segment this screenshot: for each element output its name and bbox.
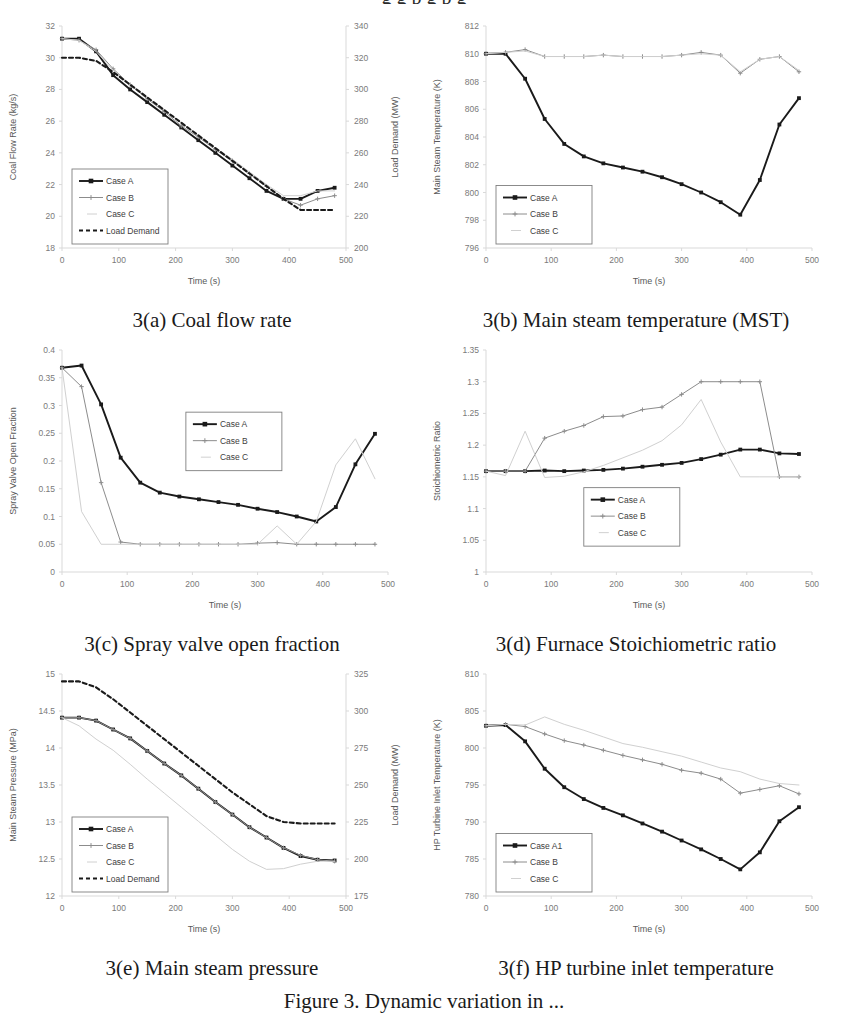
- y-tick-label: 14: [46, 743, 56, 753]
- y-tick-label: 0.25: [38, 428, 55, 438]
- legend-label: Case A: [106, 824, 134, 834]
- legend-label: Load Demand: [106, 226, 160, 236]
- plot-area-3e[interactable]: 1212.51313.51414.51517520022525027530032…: [0, 656, 424, 956]
- chart-3c: 00.050.10.150.20.250.30.350.401002003004…: [0, 332, 424, 632]
- y-tick-label: 1.2: [467, 440, 479, 450]
- x-tick-label: 400: [740, 579, 754, 589]
- legend-label: Case B: [220, 436, 248, 446]
- y-tick-label: 796: [465, 243, 479, 253]
- y-tick-label: 0.3: [43, 401, 55, 411]
- y2-tick-label: 250: [354, 780, 368, 790]
- x-tick-label: 400: [740, 255, 754, 265]
- y-tick-label: 812: [465, 21, 479, 31]
- x-tick-label: 300: [251, 579, 265, 589]
- chart-3a: 1820222426283032200220240260280300320340…: [0, 8, 424, 308]
- y-tick-label: 802: [465, 160, 479, 170]
- figure-caption: Figure 3. Dynamic variation in ...: [0, 989, 848, 1014]
- y-tick-label: 810: [465, 49, 479, 59]
- y-tick-label: 30: [46, 53, 56, 63]
- y-tick-label: 0.4: [43, 345, 55, 355]
- panel-3a: 1820222426283032200220240260280300320340…: [0, 8, 424, 332]
- x-tick-label: 500: [381, 579, 395, 589]
- y-tick-label: 808: [465, 77, 479, 87]
- legend-3a[interactable]: Case ACase BCase CLoad Demand: [72, 169, 168, 244]
- plot-area-3c[interactable]: 00.050.10.150.20.250.30.350.401002003004…: [0, 332, 424, 632]
- y-axis-title: Spray Valve Open Fraction: [8, 407, 18, 514]
- y2-tick-label: 175: [354, 891, 368, 901]
- legend-3c[interactable]: Case ACase BCase C: [186, 412, 282, 471]
- x-tick-label: 200: [169, 903, 183, 913]
- y2-tick-label: 275: [354, 743, 368, 753]
- y2-tick-label: 325: [354, 669, 368, 679]
- x-axis-title: Time (s): [209, 600, 242, 610]
- y-tick-label: 1.3: [467, 377, 479, 387]
- x-tick-label: 500: [339, 255, 353, 265]
- plot-area-3f[interactable]: 7807857907958008058100100200300400500Tim…: [424, 656, 848, 956]
- x-tick-label: 200: [609, 255, 623, 265]
- x-tick-label: 100: [120, 579, 134, 589]
- y2-tick-label: 220: [354, 211, 368, 221]
- y2-tick-label: 300: [354, 706, 368, 716]
- x-tick-label: 200: [609, 903, 623, 913]
- y-tick-label: 1.05: [462, 535, 479, 545]
- series-case-b: [484, 47, 801, 75]
- legend-3e[interactable]: Case ACase BCase CLoad Demand: [72, 817, 168, 892]
- y-axis-title: HP Turbine Inlet Temperature (K): [432, 719, 442, 851]
- x-tick-label: 200: [185, 579, 199, 589]
- series-case-c: [486, 51, 799, 72]
- y-tick-label: 0: [50, 567, 55, 577]
- legend-label: Load Demand: [106, 874, 160, 884]
- x-tick-label: 0: [60, 903, 65, 913]
- y-tick-label: 26: [46, 116, 56, 126]
- y-tick-label: 1: [474, 567, 479, 577]
- x-tick-label: 0: [484, 255, 489, 265]
- y2-tick-label: 200: [354, 243, 368, 253]
- legend-3f[interactable]: Case A1Case BCase C: [496, 834, 592, 893]
- legend-label: Case C: [220, 452, 248, 462]
- y-tick-label: 13: [46, 817, 56, 827]
- x-tick-label: 100: [544, 255, 558, 265]
- x-tick-label: 400: [740, 903, 754, 913]
- y-tick-label: 12: [46, 891, 56, 901]
- y2-tick-label: 300: [354, 84, 368, 94]
- legend-label: Case A: [220, 419, 248, 429]
- x-tick-label: 400: [282, 255, 296, 265]
- x-axis-title: Time (s): [188, 924, 221, 934]
- legend-label: Case A1: [530, 841, 562, 851]
- y2-tick-label: 280: [354, 116, 368, 126]
- x-axis-title: Time (s): [188, 276, 221, 286]
- y-axis-title: Stoichiometric Ratio: [432, 421, 442, 501]
- legend-3d[interactable]: Case ACase BCase C: [584, 488, 680, 547]
- x-tick-label: 400: [316, 579, 330, 589]
- x-tick-label: 300: [675, 255, 689, 265]
- y-tick-label: 0.1: [43, 512, 55, 522]
- y-tick-label: 18: [46, 243, 56, 253]
- x-tick-label: 100: [544, 903, 558, 913]
- series-case-b: [484, 722, 801, 796]
- panel-3d: 11.051.11.151.21.251.31.3501002003004005…: [424, 332, 848, 656]
- x-tick-label: 0: [484, 903, 489, 913]
- panel-caption-3e: 3(e) Main steam pressure: [0, 956, 424, 980]
- y-tick-label: 13.5: [38, 780, 55, 790]
- series-case-b: [484, 380, 801, 480]
- plot-area-3d[interactable]: 11.051.11.151.21.251.31.3501002003004005…: [424, 332, 848, 632]
- y-tick-label: 24: [46, 148, 56, 158]
- y-tick-label: 1.1: [467, 504, 479, 514]
- x-tick-label: 0: [484, 579, 489, 589]
- y2-tick-label: 225: [354, 817, 368, 827]
- y-tick-label: 0.15: [38, 484, 55, 494]
- legend-label: Case A: [106, 176, 134, 186]
- chart-3f: 7807857907958008058100100200300400500Tim…: [424, 656, 848, 956]
- x-axis-title: Time (s): [633, 600, 666, 610]
- y-tick-label: 810: [465, 669, 479, 679]
- x-tick-label: 500: [805, 255, 819, 265]
- chart-3b: 7967988008028048068088108120100200300400…: [424, 8, 848, 308]
- legend-3b[interactable]: Case ACase BCase C: [496, 186, 592, 245]
- x-tick-label: 100: [544, 579, 558, 589]
- y2-tick-label: 260: [354, 148, 368, 158]
- y-tick-label: 804: [465, 132, 479, 142]
- y-tick-label: 780: [465, 891, 479, 901]
- plot-area-3b[interactable]: 7967988008028048068088108120100200300400…: [424, 8, 848, 308]
- plot-area-3a[interactable]: 1820222426283032200220240260280300320340…: [0, 8, 424, 308]
- legend-label: Case C: [618, 528, 646, 538]
